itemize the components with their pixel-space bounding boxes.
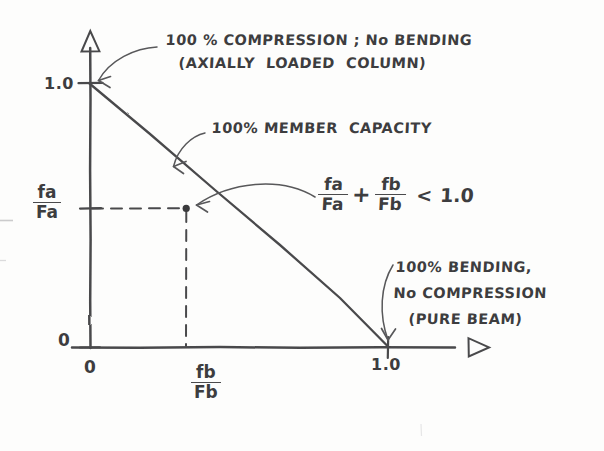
equation-compare-operator: < <box>406 184 437 206</box>
combined-stress-point <box>183 205 190 212</box>
equation-plus-operator: + <box>347 182 375 207</box>
x-tick-label-0: 0 <box>84 357 96 378</box>
annotation-member-capacity: 100% MEMBER CAPACITY <box>211 120 432 138</box>
annotation-compression-line1: 100 % COMPRESSION ; No BENDING <box>165 32 473 50</box>
x-tick-label-1: 1.0 <box>371 355 401 375</box>
y-axis-label-fa-over-Fa: fa Fa <box>33 184 61 222</box>
equation-term-1-denominator: Fa <box>317 196 348 213</box>
annotation-compression-line2: (AXIALLY LOADED COLUMN) <box>178 55 427 73</box>
y-tick-label-1: 1.0 <box>44 74 74 94</box>
equation-term-1: fa Fa <box>317 176 349 214</box>
interaction-equation: fa Fa + fb Fb < 1.0 <box>317 176 475 214</box>
equation-term-2-denominator: Fb <box>374 196 407 213</box>
annotation-bending-line1: 100% BENDING, <box>395 259 532 277</box>
x-axis <box>72 338 489 356</box>
equation-term-2-numerator: fb <box>375 176 408 193</box>
leader-top-annotation <box>99 47 158 88</box>
y-axis-label-numerator: fa <box>33 184 61 201</box>
x-axis-label-numerator: fb <box>191 364 221 381</box>
annotation-bending-line2: No COMPRESSION <box>393 285 547 303</box>
x-axis-label-denominator: Fb <box>191 384 221 401</box>
y-axis-label-denominator: Fa <box>33 204 61 221</box>
sketch-canvas: 100 % COMPRESSION ; No BENDING (AXIALLY … <box>0 0 604 451</box>
equation-term-1-numerator: fa <box>318 176 349 193</box>
paper-artifacts <box>0 221 422 437</box>
equation-term-2: fb Fb <box>374 176 408 214</box>
x-axis-label-fb-over-Fb: fb Fb <box>191 364 221 402</box>
equation-limit-value: 1.0 <box>436 184 475 206</box>
annotation-bending-line3: (PURE BEAM) <box>408 311 523 329</box>
y-tick-label-0: 0 <box>58 330 70 351</box>
y-axis <box>82 31 100 348</box>
